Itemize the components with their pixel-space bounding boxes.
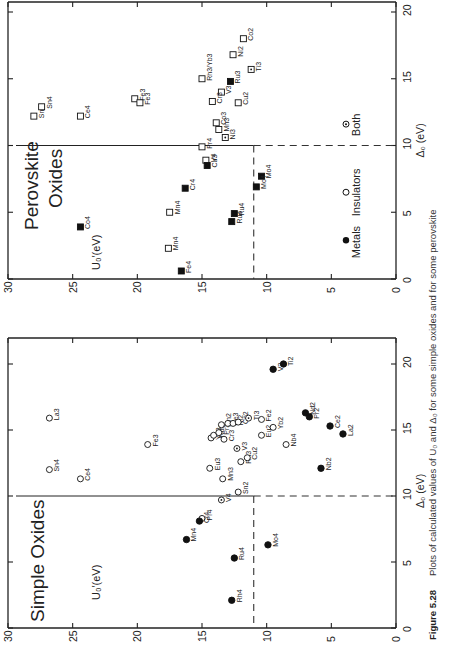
u-axis-label: U₀′(eV) bbox=[90, 235, 102, 270]
point-label: Fe2 bbox=[265, 409, 272, 421]
data-marker-circle bbox=[221, 436, 227, 442]
u-tick-label: 0 bbox=[390, 287, 402, 293]
point-label: Ni3 bbox=[229, 129, 236, 140]
point-label: La2 bbox=[347, 424, 354, 436]
data-marker-circle bbox=[229, 597, 235, 603]
point-label: Fe3 bbox=[144, 93, 151, 105]
figure-canvas: 30252015105005101520Δ₀ (eV)Simple Oxides… bbox=[0, 0, 460, 646]
point-label: Cu2 bbox=[251, 447, 258, 460]
caption-text: Plots of calculated values of U₀ and Δ₀ … bbox=[427, 210, 438, 576]
plot-title: Perovskite bbox=[21, 141, 42, 230]
data-marker-circle bbox=[235, 489, 241, 495]
point-label: Fe4 bbox=[185, 261, 192, 273]
delta-tick-label: 5 bbox=[401, 560, 413, 566]
data-marker-circle bbox=[327, 423, 333, 429]
data-marker-square bbox=[227, 78, 233, 84]
data-marker-circle bbox=[283, 442, 289, 448]
point-label: Ru4 bbox=[236, 211, 243, 224]
point-label: Ce4 bbox=[84, 105, 91, 118]
data-marker-circle bbox=[270, 366, 276, 372]
data-marker-square bbox=[213, 120, 219, 126]
data-marker-circle bbox=[238, 459, 244, 465]
delta-tick-label: 0 bbox=[401, 277, 413, 283]
point-label: Mo4 bbox=[272, 533, 279, 547]
both-dot bbox=[236, 448, 238, 450]
legend-insulator-marker bbox=[343, 189, 349, 195]
data-marker-circle bbox=[258, 416, 264, 422]
legend-metal-marker bbox=[343, 237, 349, 243]
point-label: Ti2 bbox=[287, 356, 294, 366]
point-label: Ti3 bbox=[255, 62, 262, 72]
u-axis-label: U₀′(eV) bbox=[90, 565, 102, 600]
data-marker-circle bbox=[46, 467, 52, 473]
data-marker-square bbox=[39, 104, 45, 110]
delta-tick-label: 15 bbox=[401, 71, 413, 83]
u-tick-label: 30 bbox=[2, 630, 14, 642]
data-marker-circle bbox=[220, 476, 226, 482]
data-marker-square bbox=[204, 163, 210, 169]
u-tick-label: 30 bbox=[2, 281, 14, 293]
point-label: Ru3 bbox=[234, 70, 241, 83]
plot-title: Oxides bbox=[45, 149, 66, 208]
data-marker-square bbox=[229, 219, 235, 225]
u-tick-label: 15 bbox=[196, 630, 208, 642]
data-marker-circle bbox=[216, 430, 222, 436]
data-marker-square bbox=[77, 224, 83, 230]
delta-tick-label: 20 bbox=[401, 356, 413, 368]
u-tick-label: 25 bbox=[67, 630, 79, 642]
data-marker-circle bbox=[258, 432, 264, 438]
both-dot bbox=[221, 499, 223, 501]
data-marker-circle bbox=[244, 455, 250, 461]
u-tick-label: 5 bbox=[325, 636, 337, 642]
both-dot bbox=[248, 417, 250, 419]
delta-axis-label: Δ₀ (eV) bbox=[414, 123, 426, 157]
data-marker-circle bbox=[207, 465, 213, 471]
data-marker-square bbox=[235, 100, 241, 106]
u-tick-label: 0 bbox=[390, 636, 402, 642]
data-marker-circle bbox=[280, 361, 286, 367]
data-marker-square bbox=[216, 126, 222, 132]
delta-tick-label: 20 bbox=[401, 4, 413, 16]
data-marker-square bbox=[199, 144, 205, 150]
point-label: Pr4 bbox=[206, 138, 213, 149]
u-tick-label: 20 bbox=[131, 630, 143, 642]
point-label: Ce2 bbox=[334, 415, 341, 428]
u-tick-label: 5 bbox=[325, 287, 337, 293]
both-dot bbox=[250, 69, 252, 71]
legend-both-dot bbox=[345, 123, 347, 125]
point-label: Ni2 bbox=[237, 46, 244, 57]
data-marker-square bbox=[209, 98, 215, 104]
data-marker-square bbox=[165, 245, 171, 251]
data-marker-square bbox=[240, 36, 246, 42]
point-label: Yb2 bbox=[277, 417, 284, 430]
data-marker-circle bbox=[318, 465, 324, 471]
data-marker-circle bbox=[235, 419, 241, 425]
legend-insulators-label: Insulators bbox=[350, 168, 362, 216]
point-label: Cu2 bbox=[242, 92, 249, 105]
data-marker-circle bbox=[77, 476, 83, 482]
delta-tick-label: 10 bbox=[401, 488, 413, 500]
simple-oxides-plot: 30252015105005101520Δ₀ (eV)Simple Oxides… bbox=[2, 338, 426, 642]
data-marker-square bbox=[77, 113, 83, 119]
point-label: Mo4 bbox=[260, 175, 267, 189]
figure-stage: 30252015105005101520Δ₀ (eV)Simple Oxides… bbox=[0, 0, 460, 646]
point-label: Rh3/Yb3 bbox=[206, 53, 213, 80]
point-label: Mn3 bbox=[227, 467, 234, 481]
data-marker-square bbox=[230, 52, 236, 58]
data-marker-circle bbox=[183, 536, 189, 542]
point-label: Sn4 bbox=[53, 459, 60, 472]
point-label: Eu3 bbox=[214, 458, 221, 471]
plot-title: Simple Oxides bbox=[27, 500, 48, 623]
data-marker-square bbox=[182, 185, 188, 191]
data-marker-square bbox=[137, 100, 143, 106]
u-tick-label: 20 bbox=[131, 281, 143, 293]
both-dot bbox=[224, 137, 226, 139]
perovskite-oxides-plot: 30252015105005101520Δ₀ (eV)PerovskiteOxi… bbox=[2, 2, 426, 293]
point-label: Pr2 bbox=[313, 408, 320, 419]
point-label: Rh4 bbox=[236, 589, 243, 602]
data-marker-circle bbox=[231, 555, 237, 561]
point-label: Mn4 bbox=[172, 237, 179, 251]
caption-group: Figure 5.28Plots of calculated values of… bbox=[427, 210, 438, 640]
point-label: Cr3 bbox=[228, 430, 235, 441]
data-marker-circle bbox=[306, 414, 312, 420]
